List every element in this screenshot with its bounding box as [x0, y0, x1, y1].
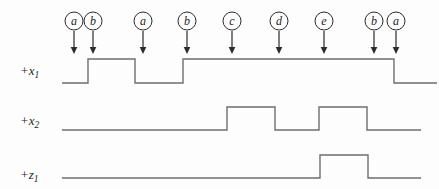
signal-label-subscript: 1	[35, 70, 40, 80]
signal-label-subscript: 1	[34, 174, 39, 184]
timing-diagram-svg: ababcdeba+x1+x2+z1	[0, 0, 439, 189]
event-letter: a	[140, 14, 146, 28]
event-letter: a	[393, 14, 399, 28]
signal-label-subscript: 2	[35, 120, 40, 130]
event-letter: b	[90, 14, 96, 28]
event-letter: b	[371, 14, 377, 28]
signal-label-base: +x	[20, 113, 35, 128]
event-letter: a	[71, 14, 77, 28]
signal-label-base: +z	[20, 167, 34, 182]
timing-diagram: ababcdeba+x1+x2+z1	[0, 0, 439, 189]
event-letter: e	[321, 14, 327, 28]
event-letter: c	[229, 14, 235, 28]
event-letter: b	[184, 14, 190, 28]
signal-label-base: +x	[20, 63, 35, 78]
event-letter: d	[276, 14, 283, 28]
